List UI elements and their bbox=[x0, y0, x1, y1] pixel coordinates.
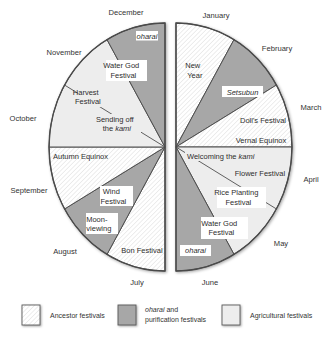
label-water-god-left-line1: Water God bbox=[103, 61, 139, 70]
legend-swatch-agricultural bbox=[222, 305, 240, 325]
label-moon-line1: Moon- bbox=[86, 215, 108, 224]
legend-oharai-rest: and bbox=[164, 306, 178, 313]
month-august: August bbox=[53, 247, 78, 256]
legend-label-agricultural: Agricultural festivals bbox=[250, 312, 313, 320]
label-wind-line1: Wind bbox=[103, 187, 120, 196]
legend-item-agricultural: Agricultural festivals bbox=[222, 305, 313, 325]
label-flower-festival: Flower Festival bbox=[235, 169, 286, 178]
label-new-year-line2: Year bbox=[187, 71, 203, 80]
month-february: February bbox=[262, 44, 293, 53]
label-autumn-equinox: Autumn Equinox bbox=[53, 152, 108, 161]
label-sending-off-the: the bbox=[103, 124, 116, 133]
label-welcoming-kami-italic: kami bbox=[239, 152, 255, 161]
label-water-god-left-line2: Festival bbox=[110, 71, 136, 80]
label-new-year-line1: New bbox=[185, 61, 201, 70]
label-rice-line1: Rice Planting bbox=[214, 188, 258, 197]
month-september: September bbox=[10, 186, 48, 195]
diagram-canvas: December November October September Augu… bbox=[0, 0, 331, 338]
label-water-god-right-line2: Festival bbox=[208, 228, 234, 237]
label-rice-line2: Festival bbox=[225, 198, 251, 207]
month-june: June bbox=[202, 278, 218, 287]
legend-oharai-line1: oharai and bbox=[145, 306, 178, 313]
label-welcoming-text: Welcoming the bbox=[187, 152, 239, 161]
legend-label-ancestor: Ancestor festivals bbox=[50, 312, 105, 319]
label-sending-off-line2: the kami bbox=[103, 124, 132, 133]
festival-calendar-diagram: December November October September Augu… bbox=[0, 0, 331, 338]
label-harvest-line2: Festival bbox=[75, 97, 101, 106]
label-wind-line2: Festival bbox=[100, 197, 126, 206]
month-may: May bbox=[274, 239, 289, 248]
month-december: December bbox=[108, 8, 143, 17]
label-oharai-december: oharai bbox=[137, 32, 158, 41]
label-welcoming-kami: Welcoming the kami bbox=[187, 152, 255, 161]
label-oharai-june: oharai bbox=[185, 246, 206, 255]
month-july: July bbox=[130, 278, 144, 287]
label-sending-off-line1: Sending off bbox=[96, 115, 135, 124]
label-vernal-equinox: Vernal Equinox bbox=[236, 136, 287, 145]
legend-item-ancestor: Ancestor festivals bbox=[22, 305, 105, 325]
legend-swatch-ancestor bbox=[22, 305, 40, 325]
label-water-god-right-line1: Water God bbox=[201, 219, 237, 228]
label-sending-off-kami-italic: kami bbox=[115, 124, 131, 133]
label-harvest-line1: Harvest bbox=[73, 88, 100, 97]
label-setsubun: Setsubun bbox=[227, 88, 259, 97]
legend-oharai-italic: oharai bbox=[145, 306, 165, 313]
label-moon-line2: viewing bbox=[86, 224, 111, 233]
month-january: January bbox=[202, 11, 229, 20]
month-april: April bbox=[303, 175, 319, 184]
legend-oharai-line2: purification festivals bbox=[145, 316, 207, 324]
label-dolls-festival: Doll's Festival bbox=[240, 116, 286, 125]
month-november: November bbox=[46, 48, 81, 57]
month-march: March bbox=[300, 103, 321, 112]
legend-swatch-oharai bbox=[118, 305, 136, 325]
month-october: October bbox=[9, 114, 36, 123]
label-bon-festival: Bon Festival bbox=[121, 246, 163, 255]
